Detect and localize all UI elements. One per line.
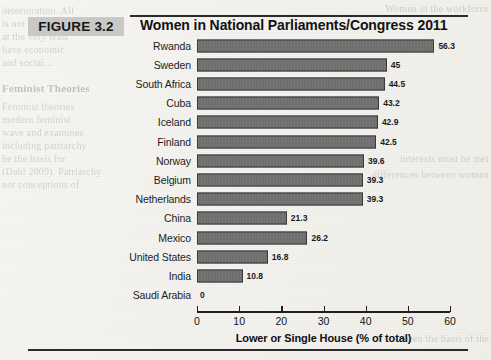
bar-category-label: Iceland [92, 116, 191, 128]
bar-value-label: 43.2 [383, 98, 400, 108]
x-axis-tick [366, 306, 367, 312]
bar-category-label: Sweden [92, 59, 191, 71]
x-axis-tick-label: 20 [275, 315, 287, 327]
bar [197, 58, 387, 71]
bar-row: Netherlands39.3 [0, 190, 491, 209]
x-axis-tick [324, 306, 325, 312]
bar-category-label: Finland [92, 136, 191, 148]
figure-block: FIGURE 3.2 Women in National Parliaments… [0, 0, 491, 360]
bar-value-label: 26.2 [311, 233, 328, 243]
x-axis-tick [239, 306, 240, 312]
bar [197, 193, 363, 206]
chart-x-axis: Lower or Single House (% of total) 01020… [0, 311, 491, 351]
bar-value-label: 42.9 [382, 117, 399, 127]
bar-category-label: India [92, 270, 191, 282]
bar [197, 212, 287, 225]
bar [197, 135, 376, 148]
bar-value-label: 42.5 [380, 137, 397, 147]
bar [197, 97, 379, 110]
bar-row: Rwanda56.3 [0, 36, 491, 55]
bar-value-label: 21.3 [291, 213, 308, 223]
x-axis-title: Lower or Single House (% of total) [197, 332, 450, 344]
bar-category-label: United States [92, 251, 191, 263]
bar-category-label: Belgium [92, 174, 191, 186]
x-axis-tick [197, 306, 198, 312]
figure-bottom-rule [28, 349, 468, 351]
bar [197, 231, 307, 244]
x-axis-tick-label: 10 [233, 315, 245, 327]
bar [197, 154, 364, 167]
bar-row: South Africa44.5 [0, 74, 491, 93]
bar-category-label: South Africa [92, 78, 191, 90]
bar [197, 116, 378, 129]
bar [197, 269, 243, 282]
bar-category-label: Saudi Arabia [92, 289, 191, 301]
x-axis-tick-label: 60 [444, 315, 456, 327]
bar-value-label: 44.5 [389, 79, 406, 89]
bar-value-label: 56.3 [438, 41, 455, 51]
figure-number-badge: FIGURE 3.2 [28, 17, 124, 36]
x-axis-tick-label: 0 [194, 315, 200, 327]
bar-value-label: 45 [391, 60, 400, 70]
bar-row: Saudi Arabia0 [0, 286, 491, 305]
x-axis-tick [281, 306, 282, 312]
bar-row: Sweden45 [0, 55, 491, 74]
bar-value-label: 39.3 [367, 194, 384, 204]
bar-value-label: 0 [200, 290, 205, 300]
x-axis-tick-label: 40 [360, 315, 372, 327]
bar-row: China21.3 [0, 209, 491, 228]
x-axis-tick [450, 306, 451, 312]
bar-value-label: 39.3 [367, 175, 384, 185]
bar-value-label: 10.8 [247, 271, 264, 281]
bar-category-label: China [92, 212, 191, 224]
bar [197, 173, 363, 186]
bar-category-label: Norway [92, 155, 191, 167]
bar-row: Iceland42.9 [0, 113, 491, 132]
figure-header: FIGURE 3.2 Women in National Parliaments… [28, 17, 468, 37]
x-axis-tick [408, 306, 409, 312]
bar-row: Finland42.5 [0, 132, 491, 151]
bar-category-label: Rwanda [92, 40, 191, 52]
bar-value-label: 16.8 [272, 252, 289, 262]
bar-row: Mexico26.2 [0, 228, 491, 247]
bar-value-label: 39.6 [368, 156, 385, 166]
x-axis-tick-label: 50 [402, 315, 414, 327]
bar [197, 250, 268, 263]
bar-category-label: Mexico [92, 232, 191, 244]
chart-plot-area: Rwanda56.3Sweden45South Africa44.5Cuba43… [0, 36, 491, 311]
chart-title: Women in National Parliaments/Congress 2… [140, 17, 447, 33]
bar [197, 39, 434, 52]
bar [197, 77, 385, 90]
bar-row: Belgium39.3 [0, 170, 491, 189]
bar-row: United States16.8 [0, 247, 491, 266]
bar-row: Cuba43.2 [0, 94, 491, 113]
bar-category-label: Cuba [92, 97, 191, 109]
x-axis-tick-label: 30 [318, 315, 330, 327]
bar-row: Norway39.6 [0, 151, 491, 170]
bar-category-label: Netherlands [92, 193, 191, 205]
bar-row: India10.8 [0, 266, 491, 285]
